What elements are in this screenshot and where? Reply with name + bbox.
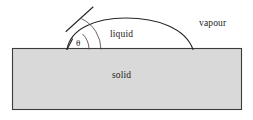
label-liquid: liquid — [110, 30, 133, 40]
tangent-line — [66, 7, 93, 32]
label-vapour: vapour — [199, 19, 226, 29]
label-solid: solid — [112, 71, 131, 81]
label-contact-angle-theta: θ — [76, 39, 80, 48]
contact-angle-figure: liquid vapour solid θ — [0, 0, 253, 120]
contact-angle-arc — [83, 34, 89, 50]
